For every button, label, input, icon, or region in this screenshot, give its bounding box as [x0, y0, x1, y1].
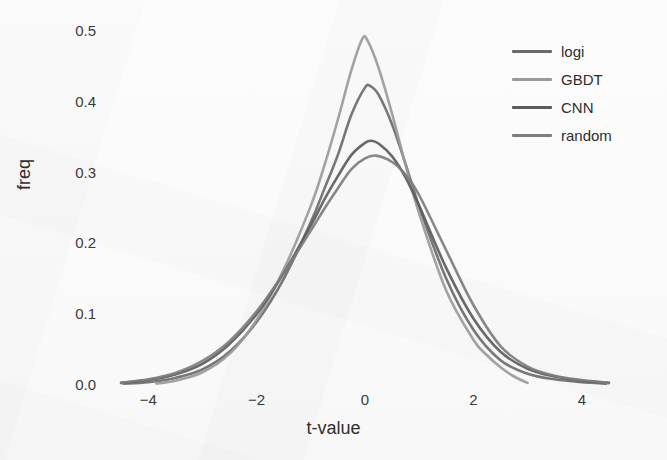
legend-line-swatch-icon [512, 78, 552, 81]
x-axis-title: t-value [0, 418, 667, 439]
y-tick-label: 0.0 [52, 376, 96, 393]
legend-line-swatch-icon [512, 134, 552, 137]
legend-label: logi [561, 44, 584, 59]
x-tick-label: 2 [453, 391, 493, 408]
x-tick-label: −2 [237, 391, 277, 408]
legend-item-cnn[interactable]: CNN [512, 100, 612, 115]
y-axis-title: freq [14, 159, 35, 190]
density-curve-gbdt [156, 36, 527, 384]
x-tick-label: 4 [562, 391, 602, 408]
y-tick-label: 0.3 [52, 164, 96, 181]
x-tick-label: 0 [345, 391, 385, 408]
chart-figure: −4−20240.00.10.20.30.40.5 freq t-value l… [0, 0, 667, 460]
y-tick-label: 0.1 [52, 305, 96, 322]
chart-legend: logiGBDTCNNrandom [512, 44, 612, 143]
y-tick-label: 0.4 [52, 93, 96, 110]
density-curve-cnn [121, 141, 609, 383]
legend-item-gbdt[interactable]: GBDT [512, 72, 612, 87]
legend-label: CNN [561, 100, 594, 115]
y-tick-label: 0.2 [52, 234, 96, 251]
density-curve-random [121, 155, 609, 382]
legend-label: GBDT [561, 72, 603, 87]
x-tick-label: −4 [128, 391, 168, 408]
legend-item-random[interactable]: random [512, 128, 612, 143]
y-tick-label: 0.5 [52, 22, 96, 39]
legend-item-logi[interactable]: logi [512, 44, 612, 59]
legend-label: random [561, 128, 612, 143]
legend-line-swatch-icon [512, 50, 552, 53]
legend-line-swatch-icon [512, 106, 552, 109]
